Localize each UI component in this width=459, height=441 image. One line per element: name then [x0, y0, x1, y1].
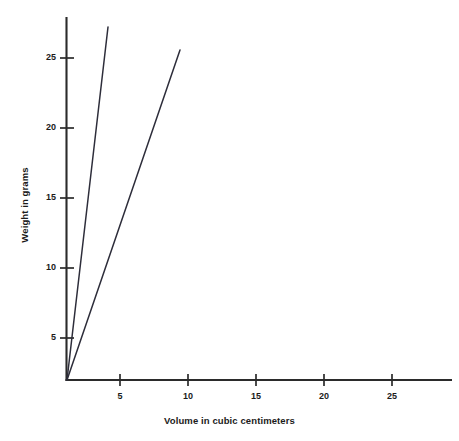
y-axis-title: Weight in grams	[19, 125, 30, 285]
y-tick-label-25: 25	[30, 52, 56, 62]
x-tick-label-5: 5	[107, 391, 133, 401]
chart-figure: 5 10 15 20 25 25 20 15 10 5 Volume in cu…	[0, 0, 459, 441]
y-tick-label-10: 10	[30, 262, 56, 272]
y-tick-label-20: 20	[30, 122, 56, 132]
x-tick-label-20: 20	[311, 391, 337, 401]
data-line-steeper	[67, 27, 108, 380]
x-axis-title: Volume in cubic centimeters	[0, 415, 459, 426]
y-tick-label-15: 15	[30, 192, 56, 202]
x-tick-label-15: 15	[243, 391, 269, 401]
data-line-shallower	[67, 50, 180, 380]
y-tick-label-5: 5	[30, 332, 56, 342]
x-tick-label-25: 25	[379, 391, 405, 401]
plot-area	[0, 0, 459, 441]
x-tick-label-10: 10	[175, 391, 201, 401]
